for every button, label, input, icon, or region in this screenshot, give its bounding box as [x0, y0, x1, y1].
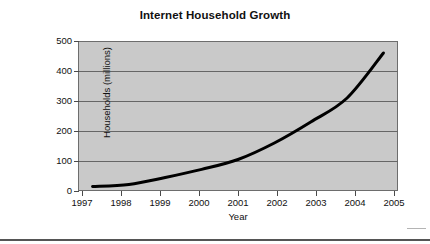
x-axis-title: Year — [78, 211, 398, 222]
ytick-label-100: 100 — [12, 156, 72, 166]
ytick-label-200: 200 — [12, 126, 72, 136]
xtick-mark-2001 — [238, 191, 239, 196]
xtick-mark-2002 — [277, 191, 278, 196]
plot-region: 500 400 300 200 100 0 Households (millio… — [78, 41, 398, 191]
xtick-mark-1999 — [160, 191, 161, 196]
ytick-label-400: 400 — [12, 66, 72, 76]
data-series-line — [78, 41, 398, 191]
xtick-mark-2003 — [316, 191, 317, 196]
ytick-mark-0 — [74, 191, 79, 192]
chart-title: Internet Household Growth — [0, 9, 430, 21]
ytick-label-300: 300 — [12, 96, 72, 106]
xtick-mark-1998 — [121, 191, 122, 196]
xtick-mark-1997 — [82, 191, 83, 196]
series-path-households — [93, 53, 384, 187]
xtick-label-2005: 2005 — [371, 197, 417, 208]
xtick-mark-2005 — [394, 191, 395, 196]
xtick-mark-2000 — [199, 191, 200, 196]
chart-figure: Internet Household Growth 500 400 300 20… — [0, 0, 430, 244]
ytick-label-0: 0 — [12, 186, 72, 196]
page-corner-mark — [407, 228, 426, 229]
page-bottom-rule — [0, 239, 430, 241]
xtick-mark-2004 — [355, 191, 356, 196]
ytick-label-500: 500 — [12, 36, 72, 46]
